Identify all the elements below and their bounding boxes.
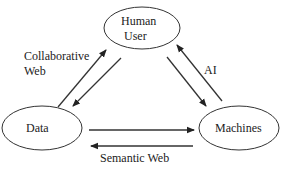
arrow-human-to-machines — [167, 57, 206, 106]
collaborative-web-label-line1: Collaborative — [24, 49, 89, 63]
node-data: Data — [2, 106, 82, 150]
semantic-web-label: Semantic Web — [100, 151, 169, 165]
ai-label: AI — [204, 63, 217, 77]
triangle-diagram: Human User Data Machines Collaborative W… — [0, 0, 288, 172]
human-user-label-line1: Human — [121, 14, 156, 28]
collaborative-web-label-line2: Web — [24, 64, 46, 78]
human-user-label-line2: User — [124, 29, 147, 43]
node-human-user: Human User — [104, 7, 180, 49]
machines-label: Machines — [215, 121, 262, 135]
node-machines: Machines — [199, 106, 279, 150]
arrow-human-to-data — [73, 58, 121, 106]
data-label: Data — [26, 121, 49, 135]
